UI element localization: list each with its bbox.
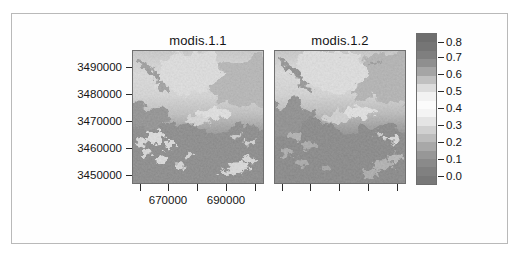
x-tick-670000-p1 (168, 184, 169, 191)
x-tick-700000-p2 (397, 184, 398, 191)
panel-title-modis-1-1: modis.1.1 (132, 33, 264, 48)
colorbar[interactable] (416, 33, 437, 185)
colorbar-label-0-1: 0.1 (446, 153, 462, 165)
colorbar-band-1 (417, 42, 436, 50)
x-tick-700000-p1 (255, 184, 256, 191)
raster-panel-modis-1-1[interactable] (132, 50, 264, 184)
colorbar-band-4 (417, 67, 436, 75)
x-tick-690000-p2 (368, 184, 369, 191)
colorbar-band-15 (417, 159, 436, 167)
colorbar-tick-0-3 (438, 125, 444, 126)
y-tick-label-3460000: 3460000 (48, 142, 122, 154)
x-tick-label-690000: 690000 (189, 194, 263, 206)
colorbar-band-2 (417, 51, 436, 59)
colorbar-label-0-7: 0.7 (446, 51, 462, 63)
figure-root: modis.1.1 modis.1.2 (0, 0, 522, 260)
colorbar-label-0-2: 0.2 (446, 136, 462, 148)
colorbar-label-0-6: 0.6 (446, 68, 462, 80)
colorbar-tick-0-7 (438, 57, 444, 58)
y-tick-label-3490000: 3490000 (48, 61, 122, 73)
colorbar-tick-0-6 (438, 74, 444, 75)
colorbar-band-17 (417, 176, 436, 184)
colorbar-band-3 (417, 59, 436, 67)
colorbar-band-5 (417, 76, 436, 84)
x-tick-680000-p2 (339, 184, 340, 191)
y-tick-3480000 (126, 94, 132, 95)
colorbar-tick-0-4 (438, 108, 444, 109)
colorbar-band-8 (417, 101, 436, 109)
colorbar-tick-0-0 (438, 176, 444, 177)
colorbar-label-0-5: 0.5 (446, 85, 462, 97)
colorbar-label-0-0: 0.0 (446, 170, 462, 182)
colorbar-band-16 (417, 167, 436, 175)
colorbar-band-12 (417, 134, 436, 142)
y-tick-3470000 (126, 121, 132, 122)
raster-image-2 (275, 51, 405, 183)
colorbar-tick-0-1 (438, 159, 444, 160)
raster-panel-modis-1-2[interactable] (274, 50, 406, 184)
y-tick-label-3470000: 3470000 (48, 115, 122, 127)
colorbar-tick-0-8 (438, 42, 444, 43)
x-tick-690000-p1 (226, 184, 227, 191)
y-tick-label-3480000: 3480000 (48, 88, 122, 100)
colorbar-band-10 (417, 117, 436, 125)
colorbar-band-9 (417, 109, 436, 117)
colorbar-band-7 (417, 92, 436, 100)
y-tick-3460000 (126, 148, 132, 149)
colorbar-band-13 (417, 142, 436, 150)
raster-image-1 (133, 51, 263, 183)
y-tick-3450000 (126, 175, 132, 176)
y-tick-label-3450000: 3450000 (48, 169, 122, 181)
colorbar-tick-0-5 (438, 91, 444, 92)
colorbar-band-11 (417, 126, 436, 134)
y-tick-3490000 (126, 67, 132, 68)
x-tick-660000-p2 (282, 184, 283, 191)
colorbar-label-0-8: 0.8 (446, 36, 462, 48)
colorbar-label-0-4: 0.4 (446, 102, 462, 114)
colorbar-label-0-3: 0.3 (446, 119, 462, 131)
colorbar-tick-0-2 (438, 142, 444, 143)
colorbar-band-6 (417, 84, 436, 92)
x-tick-660000-p1 (140, 184, 141, 191)
x-tick-680000-p1 (197, 184, 198, 191)
colorbar-band-0 (417, 34, 436, 42)
colorbar-band-14 (417, 151, 436, 159)
x-tick-670000-p2 (310, 184, 311, 191)
panel-title-modis-1-2: modis.1.2 (274, 33, 406, 48)
